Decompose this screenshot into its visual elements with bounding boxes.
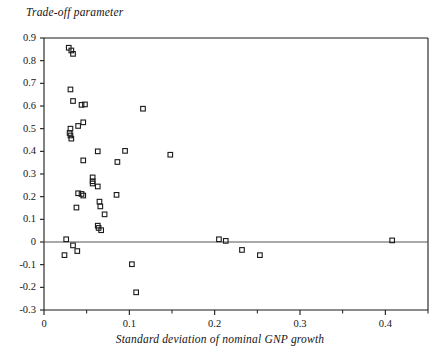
data-point	[114, 193, 119, 198]
data-point	[217, 237, 222, 242]
y-tick-label: 0.7	[2, 78, 36, 89]
y-tick-label: 0.2	[2, 192, 36, 203]
data-point	[240, 248, 245, 253]
x-axis-title: Standard deviation of nominal GNP growth	[0, 333, 440, 345]
data-point	[81, 158, 86, 163]
data-point	[98, 204, 103, 209]
data-point	[74, 205, 79, 210]
y-tick-label: 0.8	[2, 56, 36, 67]
y-tick-label: 0.9	[2, 33, 36, 44]
data-point	[95, 184, 100, 189]
y-tick-label: 0.5	[2, 124, 36, 135]
x-tick-label: 0.4	[365, 319, 405, 330]
y-tick-label: 0.6	[2, 101, 36, 112]
data-point	[97, 199, 102, 204]
data-point	[71, 243, 76, 248]
data-point	[102, 212, 107, 217]
data-point	[62, 253, 67, 258]
y-tick-label: -0.3	[2, 305, 36, 316]
data-point	[68, 87, 73, 92]
data-point	[64, 237, 69, 242]
data-point	[168, 152, 173, 157]
x-tick-label: 0	[24, 319, 64, 330]
y-tick-label: -0.1	[2, 260, 36, 271]
y-tick-label: 0	[2, 237, 36, 248]
x-tick-label: 0.3	[280, 319, 320, 330]
axes-group	[40, 38, 428, 315]
data-point	[95, 149, 100, 154]
y-tick-label: 0.1	[2, 214, 36, 225]
data-point	[258, 253, 263, 258]
data-point	[71, 99, 76, 104]
plot-area	[0, 0, 440, 354]
data-point	[141, 106, 146, 111]
x-tick-label: 0.1	[109, 319, 149, 330]
data-point	[123, 149, 128, 154]
y-tick-label: 0.4	[2, 146, 36, 157]
data-point	[81, 120, 86, 125]
y-tick-label: -0.2	[2, 282, 36, 293]
x-tick-label: 0.2	[195, 319, 235, 330]
data-point	[75, 249, 80, 254]
data-point	[130, 262, 135, 267]
data-point	[134, 290, 139, 295]
data-point	[81, 193, 86, 198]
data-points-group	[62, 45, 394, 294]
y-tick-label: 0.3	[2, 169, 36, 180]
data-point	[76, 124, 81, 129]
scatter-chart-figure: Trade-off parameter -0.3-0.2-0.100.10.20…	[0, 0, 440, 354]
data-point	[115, 160, 120, 165]
